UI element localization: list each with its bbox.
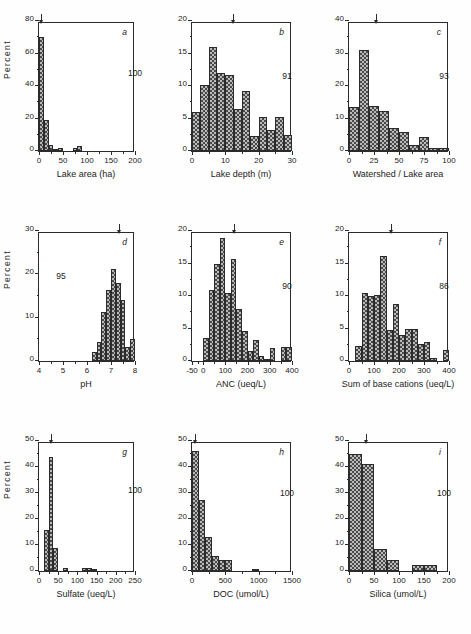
x-tick: 0: [349, 361, 350, 365]
y-tick-label: 10: [335, 112, 344, 121]
histogram-bar: [369, 106, 379, 152]
x-tick-minor: [123, 361, 124, 364]
x-tick-label: 0: [201, 366, 205, 375]
histogram-bar: [379, 111, 389, 151]
x-tick-minor: [387, 361, 388, 364]
panel-letter-label: g: [122, 447, 127, 457]
x-tick-label: 4: [37, 366, 41, 375]
histogram-panel-g: Percent01020304050050100150200250g100Sul…: [0, 420, 157, 634]
panel-letter-label: b: [279, 27, 284, 37]
y-tick-label: 0: [183, 144, 187, 153]
x-tick: 7: [111, 361, 112, 365]
y-tick-label: 50: [335, 434, 344, 443]
panel-letter-label: e: [279, 237, 284, 247]
histogram-bar: [192, 451, 199, 571]
x-tick-minor: [412, 151, 413, 154]
x-tick: 6: [87, 361, 88, 365]
x-tick-minor: [437, 361, 438, 364]
histogram-bar: [430, 358, 436, 361]
x-tick: 200: [399, 361, 400, 365]
histogram-bar: [387, 560, 400, 571]
x-tick: 0: [192, 571, 193, 575]
histogram-bar: [212, 556, 219, 571]
y-tick-label: 10: [25, 538, 34, 547]
x-tick-label: 50: [395, 156, 404, 165]
panel-letter-label: a: [122, 27, 127, 37]
x-tick-label: 200: [128, 156, 141, 165]
x-tick-minor: [106, 571, 107, 574]
x-tick-label: 0: [190, 576, 194, 585]
histogram-bar: [359, 50, 369, 151]
histogram-bar: [349, 107, 359, 151]
sample-count-label: 100: [437, 488, 451, 498]
y-tick-label: 10: [178, 289, 187, 298]
y-tick-label: 0: [340, 144, 344, 153]
x-tick-label: 100: [392, 576, 405, 585]
y-tick: 20: [188, 230, 192, 231]
x-tick-label: 200: [442, 576, 455, 585]
x-tick: 100: [374, 361, 375, 365]
y-tick: 50: [35, 440, 39, 441]
bar-series: [192, 23, 290, 151]
x-tick-label: 400: [285, 366, 298, 375]
y-tick-label: 40: [25, 460, 34, 469]
x-tick: 1000: [259, 571, 260, 575]
x-tick-label: 0: [347, 156, 351, 165]
x-tick-label: 500: [219, 576, 232, 585]
x-tick-minor: [259, 361, 260, 364]
x-tick: 8: [135, 361, 136, 365]
y-tick-label: 20: [335, 79, 344, 88]
x-tick-minor: [123, 151, 124, 154]
histogram-bar: [225, 75, 233, 151]
y-tick: 50: [345, 440, 349, 441]
x-tick-label: 0: [37, 156, 41, 165]
histogram-bar: [205, 537, 212, 571]
y-tick-label: 10: [178, 538, 187, 547]
y-tick-label: 10: [335, 538, 344, 547]
x-axis-title: DOC (umol/L): [213, 589, 269, 599]
x-tick-label: 8: [133, 366, 137, 375]
x-tick-minor: [198, 361, 199, 364]
y-tick: 80: [35, 20, 39, 21]
x-tick: 100: [225, 361, 226, 365]
mean-marker-arrow-icon: [391, 224, 392, 233]
x-tick-minor: [209, 151, 210, 154]
x-tick-label: 5: [61, 366, 65, 375]
y-tick-label: 15: [178, 257, 187, 266]
sample-count-label: 93: [439, 71, 448, 81]
x-tick-minor: [49, 571, 50, 574]
mean-marker-arrow-icon: [51, 434, 52, 443]
histogram-bar: [362, 464, 375, 571]
histogram-bar: [286, 347, 292, 361]
histogram-bar: [275, 117, 283, 151]
histogram-bar: [250, 136, 258, 151]
y-tick-label: 50: [25, 434, 34, 443]
x-tick-minor: [362, 151, 363, 154]
y-tick-label: 30: [178, 486, 187, 495]
y-tick-label: 20: [25, 512, 34, 521]
y-tick-label: 50: [178, 434, 187, 443]
x-tick-minor: [75, 151, 76, 154]
y-tick-label: 40: [178, 460, 187, 469]
x-axis-title: ANC (ueq/L): [216, 379, 266, 389]
x-tick: 200: [135, 151, 136, 155]
sample-count-label: 100: [280, 488, 294, 498]
x-tick-label: 7: [109, 366, 113, 375]
y-tick-label: 10: [25, 311, 34, 320]
histogram-bar: [374, 549, 387, 571]
x-tick: 0: [192, 151, 193, 155]
y-tick-label: 5: [183, 112, 187, 121]
x-axis-title: Lake area (ha): [57, 169, 116, 179]
y-tick-label: 30: [25, 224, 34, 233]
x-tick: 20: [259, 151, 260, 155]
x-tick-minor: [387, 151, 388, 154]
mean-marker-arrow-icon: [233, 14, 234, 23]
panel-letter-label: d: [122, 237, 127, 247]
histogram-bar: [443, 350, 449, 361]
histogram-bar: [77, 146, 82, 151]
mean-marker-arrow-icon: [195, 434, 196, 443]
histogram-bar: [63, 568, 68, 571]
y-tick-label: 30: [335, 486, 344, 495]
x-tick-label: 150: [104, 156, 117, 165]
x-tick: 200: [449, 571, 450, 575]
